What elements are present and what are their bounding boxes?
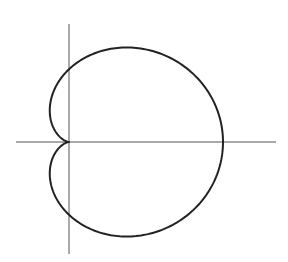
cardioid-plot [0, 0, 288, 262]
plot-canvas [0, 0, 288, 262]
